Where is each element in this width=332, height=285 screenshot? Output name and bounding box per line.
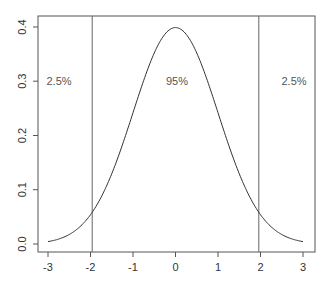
- y-tick-label: 0.4: [16, 19, 28, 34]
- left-tail-annotation: 2.5%: [46, 75, 71, 87]
- y-tick-label: 0.1: [16, 182, 28, 197]
- normal-distribution-chart: 0.0 0.1 0.2 0.3 0.4 -3 -2 -1 0 1 2 3 2.5…: [0, 0, 332, 285]
- x-tick-label: 3: [300, 261, 306, 273]
- y-tick-label: 0.0: [16, 236, 28, 251]
- y-tick-label: 0.3: [16, 74, 28, 89]
- x-tick-label: -1: [128, 261, 138, 273]
- center-annotation: 95%: [166, 75, 188, 87]
- x-tick-label: -3: [43, 261, 53, 273]
- y-tick-label: 0.2: [16, 128, 28, 143]
- x-axis: -3 -2 -1 0 1 2 3: [43, 252, 306, 273]
- y-axis: 0.0 0.1 0.2 0.3 0.4: [16, 19, 38, 251]
- x-tick-label: 1: [215, 261, 221, 273]
- x-tick-label: -2: [86, 261, 96, 273]
- x-tick-label: 0: [172, 261, 178, 273]
- right-tail-annotation: 2.5%: [281, 75, 306, 87]
- plot-frame: [38, 16, 315, 252]
- x-tick-label: 2: [257, 261, 263, 273]
- density-curve: [48, 28, 303, 242]
